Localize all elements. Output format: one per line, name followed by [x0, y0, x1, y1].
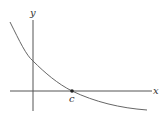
x-axis-label: x — [153, 85, 159, 96]
y-axis-label: y — [29, 7, 36, 18]
function-curve — [10, 22, 147, 110]
function-graph: y x c — [0, 0, 165, 117]
point-c-label: c — [69, 93, 75, 104]
